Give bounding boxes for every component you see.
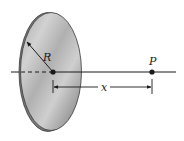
diagram: R P x <box>0 0 184 141</box>
disk-center-dot <box>50 69 55 74</box>
radius-label: R <box>42 51 51 64</box>
distance-label: x <box>101 81 108 94</box>
point-p-label: P <box>148 55 157 68</box>
point-p-dot <box>149 69 154 74</box>
